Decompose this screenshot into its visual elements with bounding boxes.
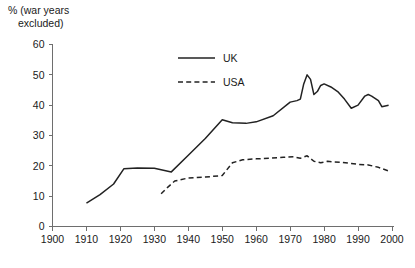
x-tick-label: 1950: [211, 233, 235, 245]
y-tick-label: 40: [33, 99, 45, 111]
series-lines: [86, 75, 388, 203]
series-line-usa: [161, 156, 388, 194]
y-axis-title: % (war yearsexcluded): [8, 4, 69, 29]
y-tick-label: 60: [33, 38, 45, 50]
x-tick-label: 1980: [312, 233, 336, 245]
y-axis: 0102030405060: [33, 38, 53, 232]
y-tick-label: 10: [33, 190, 45, 202]
legend-label-uk: UK: [223, 52, 238, 64]
x-tick-label: 1920: [109, 233, 133, 245]
x-tick-label: 1910: [75, 233, 99, 245]
y-axis-title-line: % (war years: [8, 4, 69, 16]
x-tick-label: 1940: [177, 233, 201, 245]
series-line-uk: [86, 75, 388, 203]
x-tick-label: 1960: [245, 233, 269, 245]
y-tick-label: 50: [33, 69, 45, 81]
y-axis-title-line: excluded): [18, 17, 64, 29]
x-tick-label: 1990: [346, 233, 370, 245]
x-tick-label: 2000: [380, 233, 404, 245]
x-axis: 1900191019201930194019501960197019801990…: [41, 227, 404, 245]
y-tick-label: 30: [33, 129, 45, 141]
y-tick-label: 0: [39, 220, 45, 232]
x-tick-label: 1930: [143, 233, 167, 245]
chart-legend: UKUSA: [178, 52, 245, 88]
line-chart: % (war yearsexcluded) 0102030405060 1900…: [0, 0, 415, 268]
y-tick-label: 20: [33, 160, 45, 172]
chart-page: % (war yearsexcluded) 0102030405060 1900…: [0, 0, 415, 268]
x-tick-label: 1900: [41, 233, 65, 245]
x-tick-label: 1970: [278, 233, 302, 245]
legend-label-usa: USA: [223, 76, 245, 88]
